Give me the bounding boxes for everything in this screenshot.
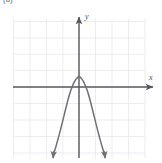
parabola-left-arrowhead [53,151,54,158]
x-axis-label: x [148,73,153,82]
coordinate-plane-graph: y x [0,0,162,163]
parabola-right-arrowhead [104,151,105,158]
y-axis-label: y [84,12,89,21]
figure-container: (b) [0,0,162,163]
